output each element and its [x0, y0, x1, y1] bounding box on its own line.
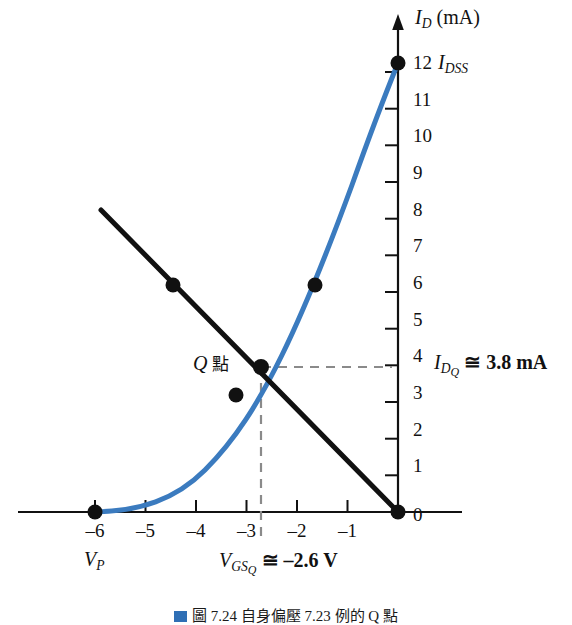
x-tick-label--2: –2 [277, 520, 317, 542]
y-tick-label-3: 3 [413, 382, 423, 404]
vgsq-label: VGSQ ≅ –2.6 V [219, 550, 338, 576]
idq-sub: D [441, 361, 451, 376]
y-tick-label-4: 4 [413, 345, 423, 367]
idq-value: 3.8 mA [486, 351, 547, 373]
y-axis-title-sub: D [422, 16, 432, 31]
idss-sub: DSS [445, 61, 468, 76]
y-tick-label-12: 12 [413, 52, 432, 74]
transfer-curve [95, 63, 398, 512]
y-tick-label-5: 5 [413, 309, 423, 331]
q-point-main: Q [193, 352, 207, 374]
marker-curve-3ma [229, 388, 244, 403]
y-axis-title-unit: (mA) [437, 6, 480, 28]
q-point-label: Q 點 [193, 353, 229, 373]
x-tick-label--3: –3 [227, 520, 267, 542]
y-tick-label-11: 11 [413, 89, 431, 111]
marker-curve-6ma [308, 278, 323, 293]
caption-marker-icon [174, 611, 187, 622]
marker-idss [391, 56, 406, 71]
y-tick-label-6: 6 [413, 272, 423, 294]
y-tick-marks [385, 72, 398, 475]
idq-main: I [434, 351, 441, 373]
y-tick-label-7: 7 [413, 235, 423, 257]
marker-loadline-mid [166, 278, 181, 293]
vp-main: V [84, 548, 96, 570]
vp-sub: P [96, 558, 104, 573]
idq-subsub: Q [451, 365, 460, 379]
y-tick-label-1: 1 [413, 455, 423, 477]
caption-text: 圖 7.24 自身偏壓 7.23 例的 Q 點 [192, 608, 398, 624]
x-tick-label--1: –1 [328, 520, 368, 542]
marker-origin [391, 505, 406, 520]
vgsq-value: –2.6 V [284, 549, 338, 571]
y-tick-label-0: 0 [413, 504, 423, 526]
marker-vp [88, 505, 103, 520]
vgsq-approx: ≅ [262, 549, 279, 571]
marker-q-point [253, 359, 269, 375]
y-axis-title-main: I [415, 6, 422, 28]
vp-label: VP [84, 549, 105, 573]
idss-main: I [438, 51, 445, 73]
x-tick-label--5: –5 [126, 520, 166, 542]
idss-label: IDSS [438, 52, 468, 76]
idq-label: IDQ ≅ 3.8 mA [434, 352, 547, 378]
q-point-cjk: 點 [212, 354, 229, 374]
y-axis-title: ID (mA) [415, 6, 480, 32]
y-tick-label-10: 10 [413, 125, 432, 147]
vgsq-main: V [219, 549, 231, 571]
x-tick-label--6: –6 [75, 520, 115, 542]
y-tick-label-9: 9 [413, 162, 423, 184]
vgsq-sub: GS [231, 559, 248, 574]
self-bias-load-line [101, 210, 398, 512]
y-axis-arrow [392, 14, 404, 30]
figure-caption: 圖 7.24 自身偏壓 7.23 例的 Q 點 [0, 604, 572, 625]
x-tick-label--4: –4 [176, 520, 216, 542]
vgsq-subsub: Q [248, 563, 257, 577]
y-tick-label-8: 8 [413, 199, 423, 221]
y-tick-label-2: 2 [413, 419, 423, 441]
idq-approx: ≅ [464, 351, 481, 373]
